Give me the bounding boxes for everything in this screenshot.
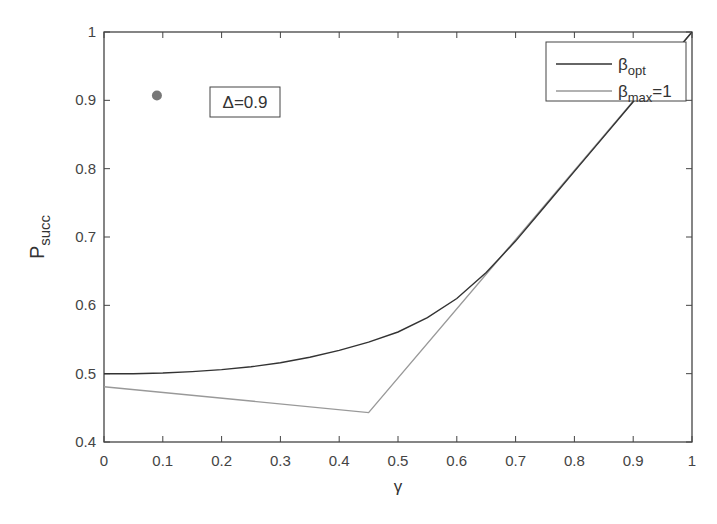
y-tick-label: 0.7 bbox=[75, 228, 96, 245]
marker-dot bbox=[152, 91, 162, 101]
x-tick-label: 0.8 bbox=[564, 452, 585, 469]
x-axis-label: γ bbox=[394, 477, 403, 496]
y-axis-label: Psucc bbox=[26, 214, 53, 259]
annotation-text: Δ=0.9 bbox=[223, 93, 268, 112]
legend: βoptβmax=1 bbox=[546, 42, 686, 105]
y-tick-label: 0.5 bbox=[75, 365, 96, 382]
y-tick-label: 0.8 bbox=[75, 160, 96, 177]
x-tick-label: 0.5 bbox=[388, 452, 409, 469]
y-tick-label: 0.4 bbox=[75, 433, 96, 450]
y-tick-label: 1 bbox=[88, 23, 96, 40]
x-tick-label: 1 bbox=[688, 452, 696, 469]
x-tick-label: 0.1 bbox=[152, 452, 173, 469]
y-tick-label: 0.9 bbox=[75, 91, 96, 108]
x-tick-label: 0.2 bbox=[211, 452, 232, 469]
x-tick-label: 0.9 bbox=[623, 452, 644, 469]
x-tick-label: 0.3 bbox=[270, 452, 291, 469]
x-tick-label: 0.6 bbox=[446, 452, 467, 469]
y-tick-label: 0.6 bbox=[75, 296, 96, 313]
x-tick-label: 0.4 bbox=[329, 452, 350, 469]
x-tick-label: 0.7 bbox=[505, 452, 526, 469]
chart-canvas: 00.10.20.30.40.50.60.70.80.910.40.50.60.… bbox=[0, 0, 717, 524]
x-tick-label: 0 bbox=[100, 452, 108, 469]
